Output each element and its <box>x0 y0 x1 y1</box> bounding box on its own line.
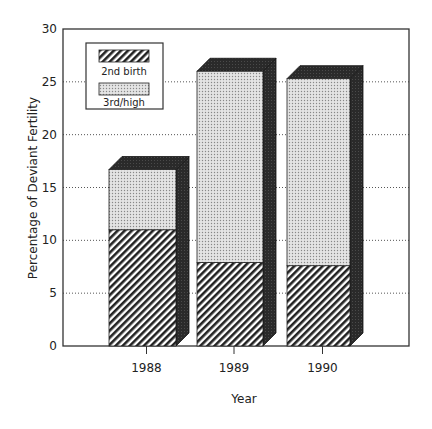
y-tick-label: 30 <box>42 22 57 36</box>
bar-segment-2nd-birth <box>197 263 263 346</box>
x-tick-label: 1989 <box>219 361 250 375</box>
bar-segment-3rd-high <box>109 170 176 230</box>
bar-side <box>350 66 363 346</box>
plot-area: 0510152025301988198919902nd birth3rd/hig… <box>26 22 409 406</box>
x-axis-label: Year <box>230 392 256 406</box>
y-tick-label: 10 <box>42 233 57 247</box>
bar-segment-3rd-high <box>197 71 263 262</box>
bar-top <box>197 58 276 71</box>
bar-side <box>176 157 189 346</box>
y-tick-label: 25 <box>42 75 57 89</box>
x-tick-label: 1988 <box>131 361 162 375</box>
y-tick-label: 20 <box>42 128 57 142</box>
y-tick-label: 0 <box>49 339 57 353</box>
legend-swatch-2nd-birth <box>99 50 149 62</box>
legend-label-2nd-birth: 2nd birth <box>101 66 147 77</box>
y-tick-label: 15 <box>42 181 57 195</box>
x-tick-label: 1990 <box>307 361 338 375</box>
bar-top <box>109 157 189 170</box>
bar-segment-3rd-high <box>287 79 350 266</box>
bar-side <box>263 58 276 346</box>
y-axis-label: Percentage of Deviant Fertility <box>26 97 40 279</box>
legend-label-3rd-high: 3rd/high <box>103 97 145 108</box>
bar-top <box>287 66 363 79</box>
y-tick-label: 5 <box>49 286 57 300</box>
bar-segment-2nd-birth <box>109 230 176 346</box>
chart: 0510152025301988198919902nd birth3rd/hig… <box>0 0 432 429</box>
bar-segment-2nd-birth <box>287 266 350 346</box>
legend-swatch-3rd-high <box>99 83 149 95</box>
